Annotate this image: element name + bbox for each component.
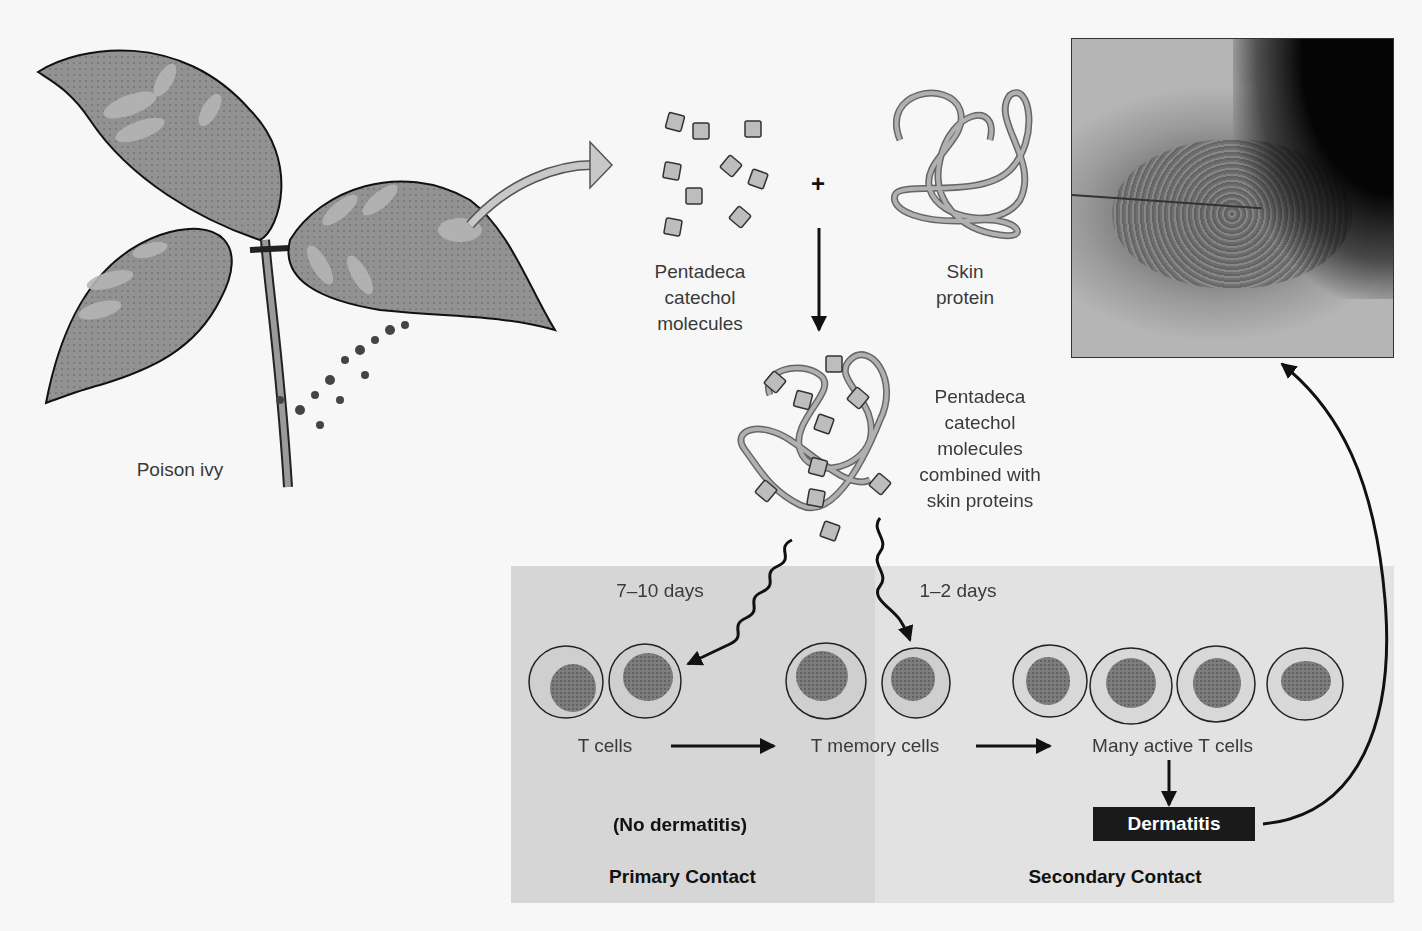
combined-label-line: combined with [905, 462, 1055, 488]
poison-ivy-illustration [38, 50, 612, 487]
skin-protein-label-line: Skin [905, 259, 1025, 285]
plus-sign: + [811, 170, 825, 197]
dermatitis-photo [1071, 38, 1394, 358]
combined-label: Pentadeca catechol molecules combined wi… [905, 384, 1055, 514]
combined-label-line: Pentadeca [905, 384, 1055, 410]
combined-label-line: catechol [905, 410, 1055, 436]
t-memory-cells [786, 643, 950, 719]
molecules-label: Pentadeca catechol molecules [640, 259, 760, 337]
dermatitis-label: Dermatitis [1093, 807, 1255, 841]
many-active-t-cells [1013, 645, 1343, 724]
t-cells-primary [529, 644, 681, 718]
no-dermatitis-label: (No dermatitis) [595, 812, 765, 838]
pentadeca-catechol-molecules [663, 112, 769, 236]
primary-time-label: 7–10 days [600, 578, 720, 604]
t-memory-cells-label: T memory cells [790, 733, 960, 759]
skin-protein-label-line: protein [905, 285, 1025, 311]
skin-protein-label: Skin protein [905, 259, 1025, 311]
combined-label-line: skin proteins [905, 488, 1055, 514]
molecules-label-line: molecules [640, 311, 760, 337]
molecules-label-line: Pentadeca [640, 259, 760, 285]
combined-label-line: molecules [905, 436, 1055, 462]
molecules-label-line: catechol [640, 285, 760, 311]
secondary-time-label: 1–2 days [898, 578, 1018, 604]
arrow-dermatitis-to-photo [1263, 364, 1387, 824]
primary-contact-title: Primary Contact [580, 864, 785, 890]
t-cells-label: T cells [555, 733, 655, 759]
many-active-t-cells-label: Many active T cells [1065, 733, 1280, 759]
skin-protein-strand [894, 93, 1028, 236]
poison-ivy-label: Poison ivy [120, 457, 240, 483]
secondary-contact-title: Secondary Contact [1000, 864, 1230, 890]
combined-complex [741, 355, 891, 542]
